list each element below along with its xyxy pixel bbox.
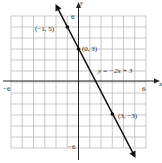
point-neg1-5: [66, 25, 70, 29]
point-label-3-neg3: (3, −3): [118, 112, 138, 120]
y-max-tick: 6: [71, 13, 75, 21]
x-min-tick: −6: [3, 85, 11, 93]
y-min-tick: −6: [68, 143, 76, 151]
point-label-neg1-5: (−1, 5): [35, 25, 55, 33]
x-max-tick: 6: [142, 85, 146, 93]
point-3-neg3: [111, 112, 115, 116]
y-axis-label: y: [79, 0, 84, 7]
x-axis-label: x: [158, 80, 162, 88]
coordinate-plane: x y −6 6 6 −6 (−1, 5) (0, 3) (3, −3) y =…: [0, 0, 162, 163]
equation-label: y = −2x + 3: [97, 67, 133, 75]
point-0-3: [77, 47, 81, 51]
point-label-0-3: (0, 3): [82, 45, 98, 53]
